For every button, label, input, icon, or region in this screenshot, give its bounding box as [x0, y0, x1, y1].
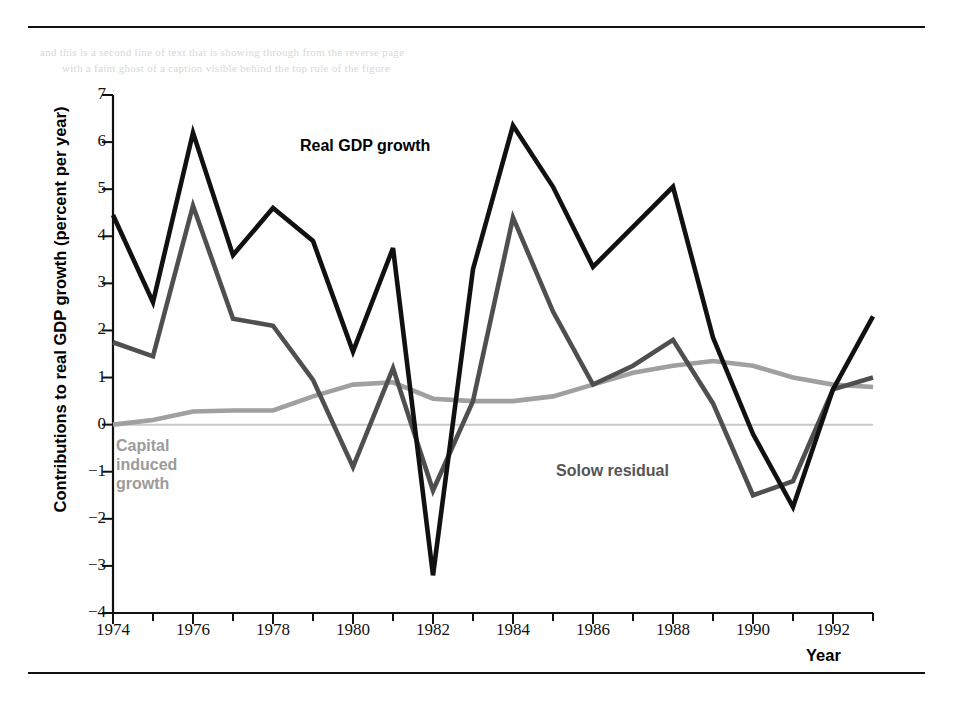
- figure-container: and this is a second line of text that i…: [0, 0, 953, 701]
- series-line-capital-induced-growth: [113, 361, 873, 425]
- series-label-capital-induced-growth: Capital induced growth: [116, 437, 177, 494]
- series-line-real-gdp-growth: [113, 126, 873, 576]
- chart-plot-area: [0, 0, 953, 701]
- series-line-solow-residual: [113, 206, 873, 496]
- series-label-solow-residual: Solow residual: [556, 462, 669, 481]
- series-label-real-gdp-growth: Real GDP growth: [300, 137, 430, 156]
